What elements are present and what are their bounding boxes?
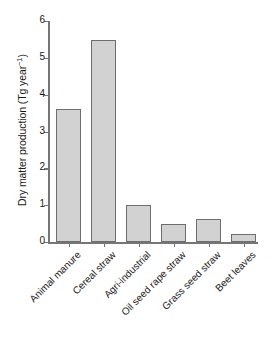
x-tick-mark — [69, 243, 70, 247]
x-axis-label-oil-seed-rape-straw: Oil seed rape straw — [119, 249, 188, 318]
bar-beet-leaves — [231, 234, 256, 242]
bar-agri-industrial — [126, 205, 151, 242]
bar-cereal-straw — [91, 40, 116, 242]
bar-animal-manure — [56, 109, 81, 242]
bar-oil-seed-rape-straw — [161, 224, 186, 242]
y-tick-label: 2 — [39, 161, 45, 173]
y-tick-label: 1 — [39, 198, 45, 210]
y-axis-title-text: Dry matter production (Tg year — [16, 66, 28, 206]
x-tick-mark — [104, 243, 105, 247]
x-tick-mark — [209, 243, 210, 247]
y-tick-label: 4 — [39, 88, 45, 100]
x-axis-line — [48, 242, 258, 244]
y-tick-label: 0 — [39, 235, 45, 247]
x-tick-mark — [244, 243, 245, 247]
x-tick-mark — [174, 243, 175, 247]
y-axis-title-exponent: −1 — [15, 58, 24, 66]
y-tick-label: 5 — [39, 51, 45, 63]
y-axis-line — [48, 21, 50, 242]
x-axis-label-animal-manure: Animal manure — [27, 249, 82, 304]
y-tick-label: 3 — [39, 125, 45, 137]
y-axis-title: Dry matter production (Tg year−1) — [14, 10, 30, 250]
x-tick-mark — [139, 243, 140, 247]
bar-chart-figure: Dry matter production (Tg year−1) 012345… — [0, 0, 272, 355]
y-axis-title-tail: ) — [16, 54, 28, 57]
bar-grass-seed-straw — [196, 219, 221, 242]
y-tick-label: 6 — [39, 14, 45, 26]
plot-area: 0123456 — [48, 21, 258, 242]
